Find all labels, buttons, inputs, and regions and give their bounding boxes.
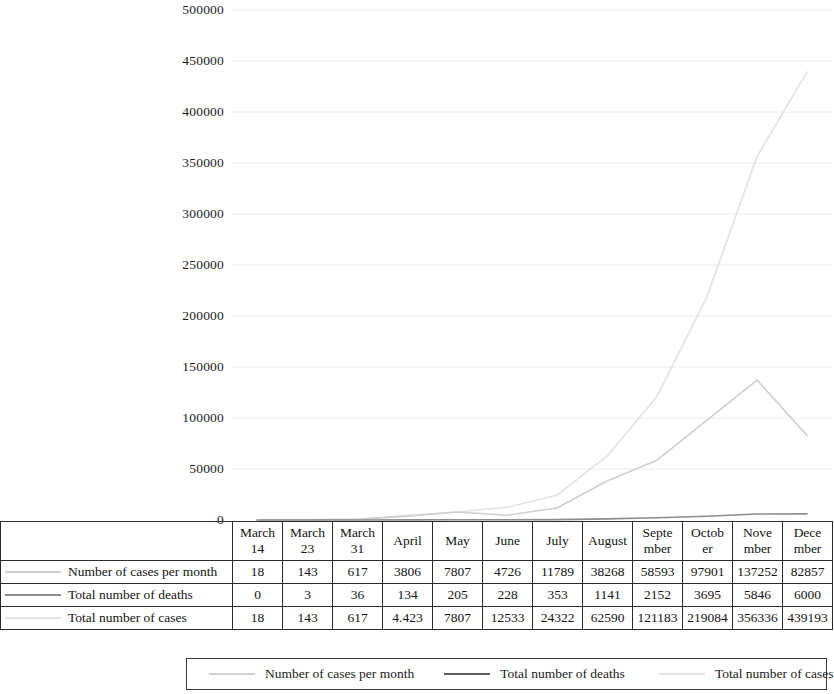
legend-swatch-icon — [444, 673, 490, 675]
table-header-row: March14March23March31AprilMayJuneJulyAug… — [1, 522, 833, 561]
legend-item: Total number of cases — [659, 666, 834, 682]
table-cell: 137252 — [733, 561, 783, 584]
table-row-label-cell: Total number of deaths — [1, 584, 233, 607]
table-cell: 439193 — [783, 607, 833, 630]
y-axis-tick-350000: 350000 — [182, 156, 224, 170]
table-header-text: Octob — [683, 525, 732, 541]
y-axis-tick-150000: 150000 — [182, 360, 224, 374]
table-header-cell: July — [533, 522, 583, 561]
table-header-text: March — [333, 525, 382, 541]
table-header-text: 31 — [333, 541, 382, 557]
legend-swatch-icon — [209, 673, 255, 675]
table-cell: 228 — [483, 584, 533, 607]
legend-label: Number of cases per month — [265, 666, 414, 682]
y-axis-tick-450000: 450000 — [182, 54, 224, 68]
table-cell: 58593 — [633, 561, 683, 584]
table-cell: 3 — [283, 584, 333, 607]
y-axis-tick-500000: 500000 — [182, 3, 224, 17]
table-header-cell: March14 — [233, 522, 283, 561]
table-row-label: Total number of deaths — [68, 587, 193, 603]
table-cell: 38268 — [583, 561, 633, 584]
table-cell: 3695 — [683, 584, 733, 607]
table-row: Number of cases per month181436173806780… — [1, 561, 833, 584]
y-axis-tick-50000: 50000 — [189, 462, 224, 476]
table-header-cell: December — [783, 522, 833, 561]
table-header-cell: March23 — [283, 522, 333, 561]
table-cell: 4726 — [483, 561, 533, 584]
table-cell: 97901 — [683, 561, 733, 584]
table-header-text: March — [283, 525, 332, 541]
legend-label: Total number of cases — [715, 666, 834, 682]
table-header-text: Nove — [733, 525, 782, 541]
table-body: Number of cases per month181436173806780… — [1, 561, 833, 630]
table-row-label: Total number of cases — [68, 610, 187, 626]
table-header-text: mber — [633, 541, 682, 557]
chart-region: 5000004500004000003500003000002500002000… — [0, 0, 832, 522]
series-line-total-number-of-cases — [257, 72, 807, 520]
table-row: Total number of deaths033613420522835311… — [1, 584, 833, 607]
table-cell: 143 — [283, 607, 333, 630]
table-row: Total number of cases181436174.423780712… — [1, 607, 833, 630]
series-swatch-icon — [5, 571, 61, 573]
legend-item: Total number of deaths — [444, 666, 625, 682]
table-header-text: mber — [783, 541, 832, 557]
table-cell: 617 — [333, 561, 383, 584]
table-cell: 82857 — [783, 561, 833, 584]
table-cell: 11789 — [533, 561, 583, 584]
table-cell: 356336 — [733, 607, 783, 630]
table-cell: 1141 — [583, 584, 633, 607]
table-row-label-cell: Number of cases per month — [1, 561, 233, 584]
table-cell: 7807 — [433, 607, 483, 630]
y-axis-tick-100000: 100000 — [182, 411, 224, 425]
table-header-cell: November — [733, 522, 783, 561]
table-cell: 18 — [233, 607, 283, 630]
series-lines — [257, 72, 807, 520]
table-cell: 219084 — [683, 607, 733, 630]
table-header-cell: May — [433, 522, 483, 561]
legend-swatch-icon — [659, 673, 705, 675]
table-row-label-cell: Total number of cases — [1, 607, 233, 630]
y-axis-tick-300000: 300000 — [182, 207, 224, 221]
table-row-label: Number of cases per month — [68, 564, 217, 580]
table-header-text: July — [533, 533, 582, 549]
table-header-text: April — [383, 533, 432, 549]
series-swatch-icon — [5, 594, 61, 596]
table-cell: 2152 — [633, 584, 683, 607]
legend-item: Number of cases per month — [209, 666, 414, 682]
table-cell: 24322 — [533, 607, 583, 630]
table-cell: 617 — [333, 607, 383, 630]
table-header-text: 14 — [233, 541, 282, 557]
y-axis-tick-400000: 400000 — [182, 105, 224, 119]
legend-label: Total number of deaths — [500, 666, 625, 682]
chart-legend: Number of cases per monthTotal number of… — [186, 658, 827, 690]
table-cell: 0 — [233, 584, 283, 607]
data-table-container: March14March23March31AprilMayJuneJulyAug… — [0, 521, 832, 630]
y-axis-tick-200000: 200000 — [182, 309, 224, 323]
table-cell: 134 — [383, 584, 433, 607]
gridlines — [232, 10, 832, 469]
table-header-cell: September — [633, 522, 683, 561]
table-header-text: March — [233, 525, 282, 541]
table-header-text: Septe — [633, 525, 682, 541]
table-header-cell: April — [383, 522, 433, 561]
table-cell: 62590 — [583, 607, 633, 630]
table-cell: 205 — [433, 584, 483, 607]
table-header-cell: March31 — [333, 522, 383, 561]
table-header-text: August — [583, 533, 632, 549]
data-table: March14March23March31AprilMayJuneJulyAug… — [0, 521, 833, 630]
table-cell: 7807 — [433, 561, 483, 584]
table-cell: 6000 — [783, 584, 833, 607]
plot-area — [232, 0, 832, 522]
table-header-text: er — [683, 541, 732, 557]
table-header-cell: June — [483, 522, 533, 561]
table-header-text: May — [433, 533, 482, 549]
table-header-cell: October — [683, 522, 733, 561]
line-chart-svg — [232, 0, 832, 522]
table-cell: 18 — [233, 561, 283, 584]
table-corner-cell — [1, 522, 233, 561]
y-axis-tick-250000: 250000 — [182, 258, 224, 272]
series-line-number-of-cases-per-month — [257, 380, 807, 520]
table-header-text: Dece — [783, 525, 832, 541]
y-axis-tick-labels: 5000004500004000003500003000002500002000… — [150, 0, 232, 522]
table-header-cell: August — [583, 522, 633, 561]
